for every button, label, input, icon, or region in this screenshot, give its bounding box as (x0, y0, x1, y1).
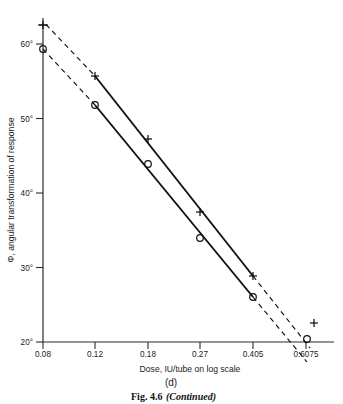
x-axis-tick-labels: 0.08 0.12 0.18 0.27 0.405 0.6075 (35, 350, 319, 359)
x-axis-title: Dose, IU/tube on log scale (140, 364, 241, 374)
chart-svg: 20° 30° 40° 50° 60° 0.08 0.12 0.18 0.27 … (0, 0, 343, 404)
y-axis-title: Φ, angular transformation of response (6, 117, 16, 262)
data-point-plus (144, 135, 152, 143)
series-unknown (43, 49, 307, 362)
data-point-plus (196, 208, 204, 216)
series-unknown-dashed-low (43, 49, 95, 105)
figure-caption-number: Fig. 4.6 (131, 391, 162, 402)
y-tick-label-60: 60° (21, 40, 33, 49)
y-axis-ticks (36, 25, 48, 342)
x-axis-ticks (43, 342, 306, 349)
x-tick-label-4: 0.405 (243, 350, 264, 359)
series-standard-dashed-low (46, 25, 95, 77)
series-standard-dashed-high (253, 276, 310, 348)
x-tick-label-1: 0.12 (87, 350, 103, 359)
figure-caption: Fig. 4.6 (Continued) (131, 391, 216, 403)
x-tick-label-5: 0.6075 (293, 350, 318, 359)
data-point-plus (39, 21, 47, 29)
series-standard-markers (39, 21, 318, 327)
y-tick-label-40: 40° (21, 189, 33, 198)
series-standard-solid (95, 76, 253, 276)
x-tick-label-3: 0.27 (192, 350, 208, 359)
x-tick-label-0: 0.08 (35, 350, 51, 359)
series-standard (46, 25, 310, 349)
series-unknown-solid (95, 105, 253, 297)
x-tick-label-2: 0.18 (140, 350, 156, 359)
data-point-plus (310, 319, 318, 327)
figure-container: 20° 30° 40° 50° 60° 0.08 0.12 0.18 0.27 … (0, 0, 343, 404)
data-point-circle (145, 161, 152, 168)
panel-label: (d) (165, 377, 177, 388)
y-axis-tick-labels: 20° 30° 40° 50° 60° (21, 40, 33, 347)
y-tick-label-50: 50° (21, 115, 33, 124)
data-point-circle (304, 336, 311, 343)
figure-caption-continued: (Continued) (166, 391, 216, 403)
y-tick-label-20: 20° (21, 338, 33, 347)
y-tick-label-30: 30° (21, 264, 33, 273)
data-point-circle (197, 235, 204, 242)
